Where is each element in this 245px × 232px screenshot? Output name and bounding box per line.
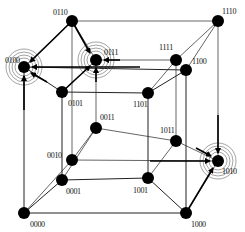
edge-1000-1001 xyxy=(148,178,186,213)
edge-1100-1101 xyxy=(148,70,186,93)
node-label-1011: 1011 xyxy=(160,126,175,135)
edge-1101-1111 xyxy=(148,60,176,93)
node-label-0111: 0111 xyxy=(104,48,119,57)
edge-1110-1111 xyxy=(176,21,218,60)
node-0000 xyxy=(18,207,30,219)
node-label-1111: 1111 xyxy=(159,43,173,52)
node-label-0000: 0000 xyxy=(30,220,45,229)
node-0101 xyxy=(56,86,68,98)
edge-0001-0011 xyxy=(62,128,96,180)
node-0001 xyxy=(56,174,68,186)
node-1101 xyxy=(142,87,154,99)
arrow-icon xyxy=(186,168,213,213)
hypercube-diagram: 0000000100100011010001010110011110001001… xyxy=(0,0,245,232)
node-0010 xyxy=(66,154,78,166)
node-label-0100: 0100 xyxy=(5,56,20,65)
node-1011 xyxy=(170,135,182,147)
node-label-1101: 1101 xyxy=(133,100,148,109)
node-label-0001: 0001 xyxy=(66,187,81,196)
edge-0101-1101 xyxy=(62,92,148,93)
edge-0001-1001 xyxy=(62,178,148,180)
arrow-icon xyxy=(30,21,72,62)
node-0110 xyxy=(66,15,78,27)
node-0111 xyxy=(90,54,102,66)
node-label-0101: 0101 xyxy=(68,99,83,108)
node-label-1010: 1010 xyxy=(222,167,237,176)
node-1010 xyxy=(212,155,224,167)
edge-0000-0010 xyxy=(24,160,72,213)
hypercube-edges xyxy=(24,21,218,213)
node-label-1110: 1110 xyxy=(222,7,237,16)
node-label-0011: 0011 xyxy=(100,113,115,122)
node-1111 xyxy=(170,54,182,66)
hypercube-nodes xyxy=(18,15,224,219)
node-1110 xyxy=(212,15,224,27)
node-1000 xyxy=(180,207,192,219)
node-1100 xyxy=(180,64,192,76)
node-label-0010: 0010 xyxy=(47,151,62,160)
arrow-icon xyxy=(31,73,47,82)
edge-0010-0011 xyxy=(72,128,96,160)
node-label-1100: 1100 xyxy=(192,57,207,66)
node-label-1000: 1000 xyxy=(191,220,206,229)
signal-arrows xyxy=(24,21,218,213)
node-label-0110: 0110 xyxy=(53,8,68,17)
node-0011 xyxy=(90,122,102,134)
node-1001 xyxy=(142,172,154,184)
edge-0000-0001 xyxy=(24,180,62,213)
edge-1001-1011 xyxy=(148,141,176,178)
node-label-1001: 1001 xyxy=(133,186,148,195)
